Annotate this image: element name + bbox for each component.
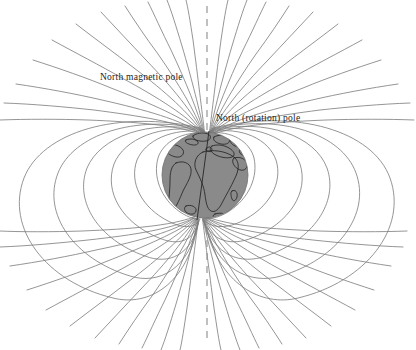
label-north-rotation-pole: North (rotation) pole bbox=[216, 114, 300, 124]
magnetic-field-figure: North magnetic pole North (rotation) pol… bbox=[0, 0, 416, 350]
field-lines-south bbox=[0, 217, 407, 350]
magnetic-field-diagram bbox=[0, 0, 416, 350]
label-north-magnetic-pole: North magnetic pole bbox=[100, 73, 183, 83]
